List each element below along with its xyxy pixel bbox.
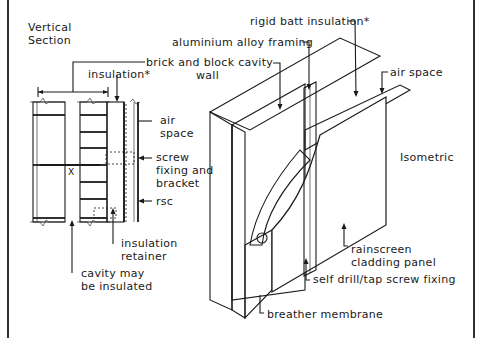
- label-rigid-batt-insulation: rigid batt insulation*: [250, 15, 370, 28]
- label-cavity-1: cavity may: [81, 267, 145, 280]
- section-title-line2: Section: [28, 34, 71, 47]
- label-air-space-section-1: air: [160, 114, 175, 127]
- label-screw-fixing-1: screw: [156, 151, 189, 164]
- label-aluminium-framing: aluminium alloy framing: [172, 36, 313, 49]
- frame: [8, 0, 474, 338]
- label-air-space-section-2: space: [160, 127, 194, 140]
- isometric-title: Isometric: [400, 151, 454, 164]
- label-rsc: rsc: [156, 195, 173, 208]
- label-air-space-iso: air space: [390, 66, 443, 79]
- label-brick-block-line2: wall: [196, 69, 219, 82]
- dimension-x-label: X: [68, 166, 74, 179]
- label-screw-fixing-2: fixing and: [156, 164, 214, 177]
- label-insulation: insulation*: [88, 68, 150, 81]
- label-rainscreen-2: cladding panel: [351, 256, 436, 269]
- label-screw-fixing-3: bracket: [156, 177, 199, 190]
- section-title-line1: Vertical: [28, 21, 72, 34]
- label-insulation-retainer-1: insulation: [121, 237, 178, 250]
- label-brick-block-line1: brick and block cavity: [146, 56, 273, 69]
- label-insulation-retainer-2: retainer: [121, 250, 167, 263]
- label-rainscreen-1: rainscreen: [351, 243, 412, 256]
- label-breather-membrane: breather membrane: [267, 308, 383, 321]
- label-self-drill-screw: self drill/tap screw fixing: [313, 273, 456, 286]
- label-cavity-2: be insulated: [81, 280, 152, 293]
